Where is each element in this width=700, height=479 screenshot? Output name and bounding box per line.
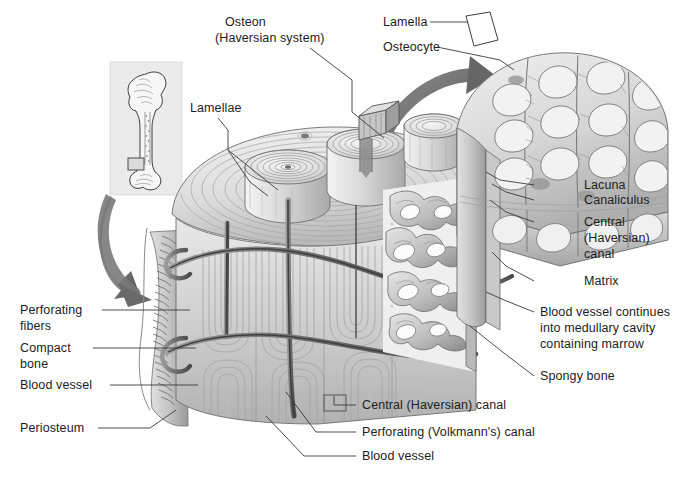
label-central-haversian-canal-bottom: Central (Haversian) canal — [362, 397, 506, 413]
label-central-canal-haversian: (Haversian) — [584, 230, 650, 246]
label-osteon-haversian-system: (Haversian system) — [215, 30, 324, 46]
label-blood-vessel-medullary-1: Blood vessel continues — [540, 304, 670, 320]
label-perforating-fibers-2: fibers — [20, 318, 51, 334]
label-blood-vessel-left: Blood vessel — [20, 377, 92, 393]
lamella-plate-marker — [466, 12, 498, 46]
label-osteocyte: Osteocyte — [383, 39, 440, 55]
label-spongy-bone: Spongy bone — [540, 368, 615, 384]
label-blood-vessel-medullary-3: containing marrow — [540, 336, 644, 352]
surface-lacuna — [301, 134, 309, 139]
label-lamella: Lamella — [383, 14, 427, 30]
label-compact-bone-2: bone — [20, 356, 48, 372]
label-osteon: Osteon — [225, 14, 266, 30]
label-perforating-volkmanns-canal: Perforating (Volkmann's) canal — [362, 424, 535, 440]
label-perforating-fibers-1: Perforating — [20, 302, 82, 318]
label-central-canal-canal: canal — [584, 246, 614, 262]
label-compact-bone-1: Compact — [20, 340, 71, 356]
label-periosteum: Periosteum — [20, 420, 84, 436]
label-lamellae: Lamellae — [190, 100, 242, 116]
femur-inset — [110, 62, 182, 195]
label-central-canal: Central — [584, 214, 625, 230]
label-canaliculus: Canaliculus — [584, 192, 650, 208]
label-matrix: Matrix — [584, 273, 619, 289]
label-blood-vessel-bottom: Blood vessel — [362, 448, 434, 464]
figure-canvas: Osteon (Haversian system) Lamellae Lamel… — [0, 0, 700, 479]
label-blood-vessel-medullary-2: into medullary cavity — [540, 320, 655, 336]
osteon-cylinder-right — [404, 114, 464, 171]
label-lacuna: Lacuna — [584, 177, 626, 193]
osteocyte-lamella-magnification — [457, 12, 669, 330]
